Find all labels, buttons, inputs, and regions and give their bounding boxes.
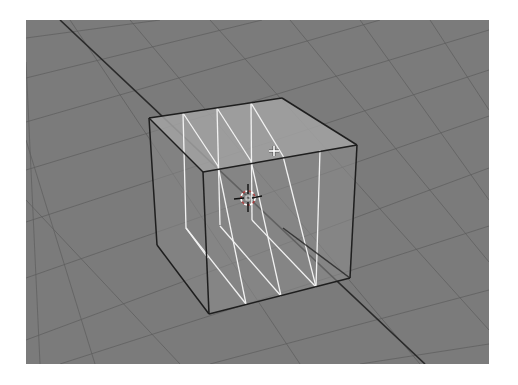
3d-cursor-arm [234,198,244,199]
3d-viewport[interactable] [0,0,518,385]
3d-viewport-container [0,0,518,385]
